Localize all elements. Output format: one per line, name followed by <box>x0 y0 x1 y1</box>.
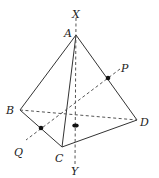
label-x: X <box>71 8 81 21</box>
label-b: B <box>5 104 14 117</box>
center-marker <box>72 124 78 128</box>
label-c: C <box>55 152 64 165</box>
edge-bd-hidden <box>20 110 137 120</box>
midpoint-ad-dot <box>106 76 111 81</box>
edge-ac <box>62 35 76 147</box>
label-d: D <box>139 116 149 129</box>
label-p: P <box>120 62 129 75</box>
label-q: Q <box>14 146 23 159</box>
label-y: Y <box>71 165 80 178</box>
tetrahedron-diagram: X A P B D Q C Y <box>0 0 159 178</box>
midpoint-bc-dot <box>39 126 44 131</box>
label-a: A <box>63 27 72 40</box>
edge-cd <box>62 120 137 147</box>
diagram-svg: X A P B D Q C Y <box>0 0 159 178</box>
